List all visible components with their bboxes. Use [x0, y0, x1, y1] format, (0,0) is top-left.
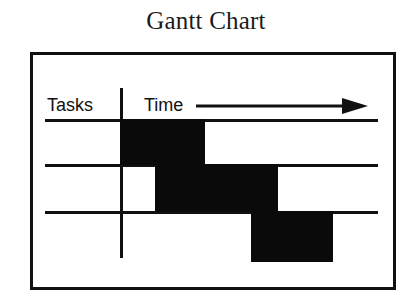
tasks-time-divider-line — [120, 88, 123, 258]
time-axis-label: Time — [144, 94, 183, 116]
chart-title: Gantt Chart — [0, 6, 412, 36]
gantt-bar-row-3[interactable] — [251, 211, 333, 262]
right-arrow-icon — [196, 97, 368, 115]
gantt-bar-row-2[interactable] — [155, 164, 278, 212]
gantt-bar-row-1[interactable] — [120, 119, 205, 165]
gantt-chart-figure: Gantt Chart Tasks Time — [0, 0, 412, 305]
row-separator-line-1 — [45, 119, 378, 122]
tasks-axis-label: Tasks — [47, 94, 93, 116]
